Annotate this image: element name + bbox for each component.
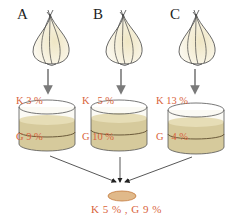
concentration-c: K 13 % G 4 % xyxy=(156,71,188,155)
concentration-a: K 3 % G 9 % xyxy=(16,71,43,155)
g-value-a: G 9 % xyxy=(16,131,43,143)
k-value-a: K 3 % xyxy=(16,95,43,107)
arrow-converge-icon-c xyxy=(125,157,192,182)
sample-label-a: A xyxy=(17,6,28,23)
k-value-c: K 13 % xyxy=(156,95,188,107)
g-value-b: G 10 % xyxy=(82,131,114,143)
arrow-converge-icon-a xyxy=(50,156,116,182)
garlic-icon-a xyxy=(33,10,69,66)
k-value-b: K 5 % xyxy=(82,95,114,107)
result-label: K 5 % , G 9 % xyxy=(91,203,162,215)
result-colony xyxy=(108,191,136,201)
sample-label-c: C xyxy=(170,6,180,23)
garlic-icon-c xyxy=(179,10,215,66)
g-value-c: G 4 % xyxy=(156,131,188,143)
concentration-b: K 5 % G 10 % xyxy=(82,71,114,155)
garlic-icon-b xyxy=(106,10,142,66)
sample-label-b: B xyxy=(93,6,103,23)
